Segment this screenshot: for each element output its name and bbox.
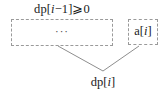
- result-label: dp[i]: [70, 76, 136, 89]
- prefix-ellipsis-label: ···: [11, 26, 113, 37]
- connector-element-to-result: [103, 46, 139, 71]
- connector-prefix-to-result: [58, 46, 103, 71]
- condition-label: dp[i−1]⩾0: [0, 3, 124, 16]
- diagram-canvas: dp[i−1]⩾0 ··· a[i] dp[i]: [0, 0, 168, 95]
- current-element-label: a[i]: [128, 25, 158, 38]
